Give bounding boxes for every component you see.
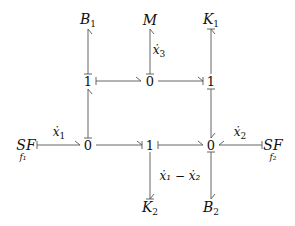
bond-sf2-to-j0 <box>219 141 262 149</box>
bond-j0-to-j1-top <box>158 77 203 85</box>
element-k2: K2 <box>142 200 158 217</box>
bond-graph-canvas <box>0 0 295 226</box>
junction-1-top-left: 1 <box>84 75 92 88</box>
source-sf2-subscript: f₂ <box>270 153 277 162</box>
bond-j1-to-k1 <box>207 29 215 74</box>
source-sf1-subscript: f₁ <box>20 153 27 162</box>
element-b2: B2 <box>203 200 219 217</box>
bond-j1-to-j0-bottom <box>158 141 203 149</box>
element-k1: K1 <box>203 12 219 29</box>
junction-0-bottom-right: 0 <box>207 139 215 152</box>
flow-label-x1-minus-x2: ẋ₁ − ẋ₂ <box>160 170 201 182</box>
bond-j0-to-j1-left <box>84 89 92 138</box>
bond-j0-to-b2 <box>207 152 215 199</box>
junction-1-top-right: 1 <box>207 75 215 88</box>
flow-label-x1dot: ẋ1 <box>53 126 66 141</box>
flow-label-x3dot: ẋ3 <box>153 44 166 59</box>
junction-0-bottom-left: 0 <box>84 139 92 152</box>
bond-sf1-to-j0 <box>37 141 80 149</box>
flow-label-x2dot: ẋ2 <box>234 126 247 141</box>
bond-j0-to-j1-bottom <box>96 141 142 149</box>
junction-1-bottom-mid: 1 <box>146 139 154 152</box>
source-sf1: SF <box>16 138 35 152</box>
junction-0-top-mid: 0 <box>146 75 154 88</box>
element-m: M <box>143 13 157 27</box>
source-sf2: SF <box>263 138 282 152</box>
element-b1: B1 <box>80 12 96 29</box>
bond-j1-to-b1 <box>84 29 92 74</box>
bond-j1-to-k2 <box>146 152 154 199</box>
bond-j1-to-j0-top <box>96 77 141 85</box>
bond-j1-to-j0-right <box>207 89 215 138</box>
